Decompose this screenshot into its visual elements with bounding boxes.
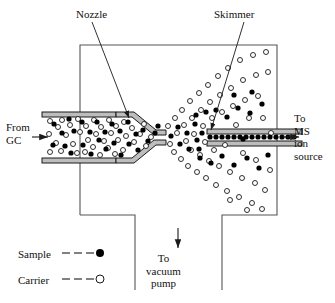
jet-separator-diagram: Nozzle Skimmer From GC To MS ion source … bbox=[0, 0, 335, 303]
legend-sample-label: Sample bbox=[18, 248, 51, 261]
legend-carrier-marker bbox=[96, 275, 104, 283]
nozzle-leader-line bbox=[92, 22, 129, 118]
legend-sample-marker bbox=[96, 249, 104, 257]
from-gc-label: From GC bbox=[6, 121, 30, 146]
to-ms-ion-source-label: To MS ion source bbox=[294, 112, 323, 162]
legend-carrier-label: Carrier bbox=[18, 274, 49, 287]
nozzle-label: Nozzle bbox=[76, 8, 107, 21]
skimmer-label: Skimmer bbox=[214, 8, 254, 21]
to-vacuum-pump-label: To vacuum pump bbox=[146, 252, 181, 290]
